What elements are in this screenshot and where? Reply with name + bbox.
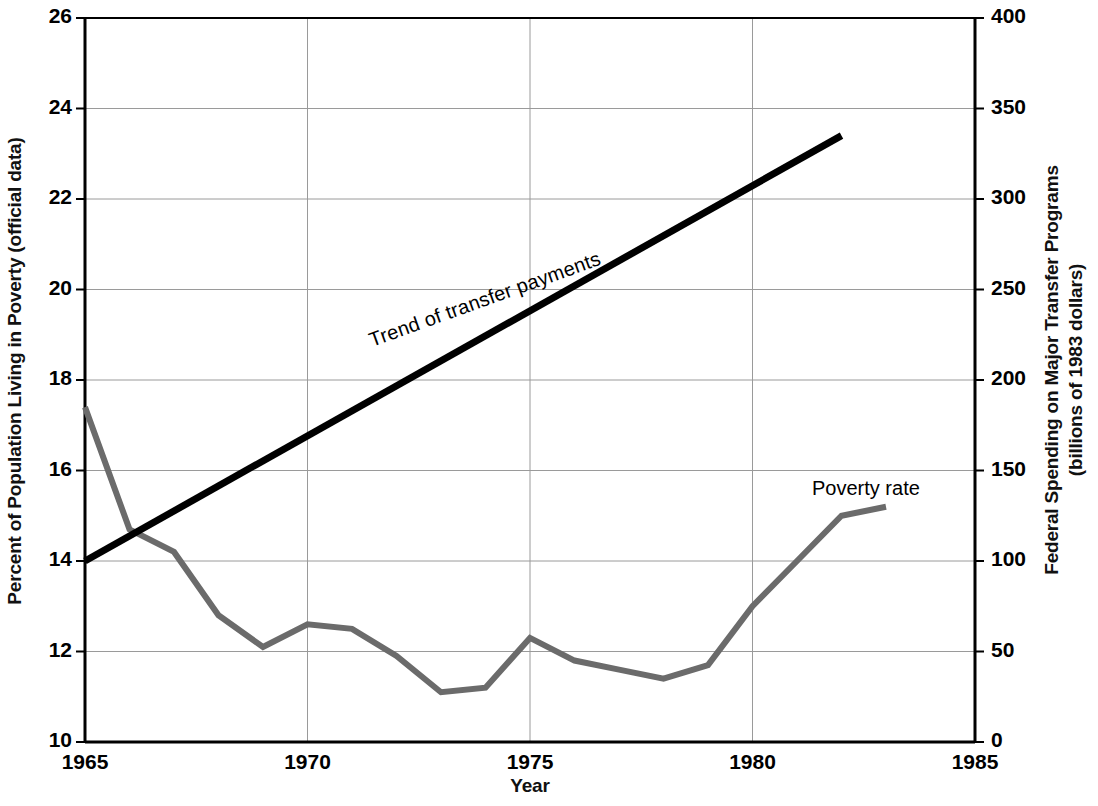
x-axis-tick-label: 1985 (915, 750, 1035, 774)
y-axis-tick-label-right: 150 (991, 457, 1061, 481)
y-axis-tick-label-left: 16 (12, 457, 72, 481)
y-axis-tick-label-left: 24 (12, 95, 72, 119)
y-axis-tick-label-right: 250 (991, 276, 1061, 300)
x-axis-tick-label: 1980 (693, 750, 813, 774)
y-axis-tick-label-left: 18 (12, 366, 72, 390)
y-axis-tick-label-right: 50 (991, 638, 1061, 662)
plot-canvas (0, 0, 1098, 806)
y-axis-tick-label-left: 20 (12, 276, 72, 300)
y-axis-tick-label-left: 12 (12, 638, 72, 662)
x-axis-tick-label: 1970 (248, 750, 368, 774)
series-line-poverty-rate (85, 407, 886, 692)
y-axis-tick-label-left: 14 (12, 547, 72, 571)
poverty-line-annotation: Poverty rate (812, 477, 920, 500)
chart-figure: Percent of Population Living in Poverty … (0, 0, 1098, 806)
y-axis-tick-label-right: 300 (991, 185, 1061, 209)
x-axis-tick-label: 1975 (470, 750, 590, 774)
y-axis-tick-label-left: 22 (12, 185, 72, 209)
y-axis-tick-label-right: 100 (991, 547, 1061, 571)
y-axis-tick-label-right: 0 (991, 728, 1061, 752)
x-axis-tick-label: 1965 (25, 750, 145, 774)
y-axis-tick-label-right: 400 (991, 4, 1061, 28)
y-axis-tick-label-left: 26 (12, 4, 72, 28)
y-axis-tick-label-left: 10 (12, 728, 72, 752)
y-axis-tick-label-right: 350 (991, 95, 1061, 119)
y-axis-tick-label-right: 200 (991, 366, 1061, 390)
